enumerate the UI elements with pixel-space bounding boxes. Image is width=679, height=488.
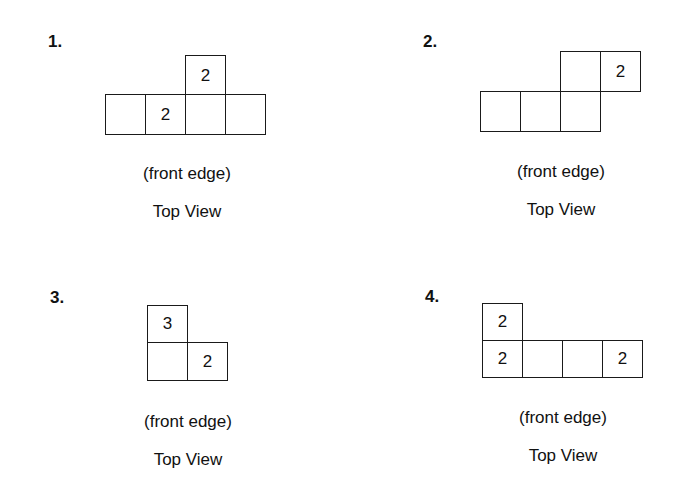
grid-cell: 2 <box>602 340 643 378</box>
grid-cell <box>185 94 226 135</box>
front-edge-caption: (front edge) <box>108 412 268 432</box>
problem-label: 2. <box>423 32 437 52</box>
grid-cell <box>105 94 146 135</box>
grid-cell <box>147 342 188 381</box>
grid-cell <box>560 51 601 92</box>
grid-cell: 3 <box>147 305 188 343</box>
top-view-caption: Top View <box>108 450 268 470</box>
grid-cell: 2 <box>185 55 226 96</box>
grid-cell <box>520 91 561 132</box>
grid-cell <box>480 91 521 132</box>
grid-cell: 2 <box>600 51 641 92</box>
front-edge-caption: (front edge) <box>481 162 641 182</box>
problem-label: 4. <box>425 287 439 307</box>
grid-cell: 2 <box>145 94 186 135</box>
grid-cell <box>562 340 603 378</box>
grid-cell <box>225 94 266 135</box>
problem-label: 1. <box>48 32 62 52</box>
grid-cell: 2 <box>482 340 523 378</box>
top-view-caption: Top View <box>107 202 267 222</box>
front-edge-caption: (front edge) <box>483 408 643 428</box>
grid-cell: 2 <box>187 342 228 381</box>
top-view-caption: Top View <box>483 446 643 466</box>
grid-cell: 2 <box>482 303 523 341</box>
problem-label: 3. <box>50 288 64 308</box>
front-edge-caption: (front edge) <box>107 164 267 184</box>
top-view-caption: Top View <box>481 200 641 220</box>
grid-cell <box>522 340 563 378</box>
grid-cell <box>560 91 601 132</box>
